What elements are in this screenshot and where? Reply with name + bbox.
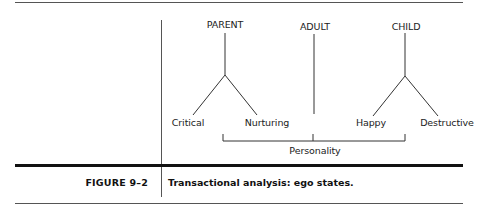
personality-label: Personality [289,145,340,156]
child-happy-branch [373,76,405,116]
child-label: CHILD [392,21,421,32]
destructive-label: Destructive [420,117,474,128]
caption-top-rule [15,164,463,167]
happy-label: Happy [356,117,386,128]
parent-nurturing-branch [225,75,257,115]
parent-critical-branch [193,75,225,115]
figure-number: FIGURE 9–2 [85,177,148,188]
figure-caption: Transactional analysis: ego states. [168,177,354,188]
bottom-rule [15,203,463,204]
critical-label: Critical [172,117,204,128]
personality-bracket [223,134,405,141]
parent-label: PARENT [207,19,244,30]
adult-label: ADULT [300,21,330,32]
nurturing-label: Nurturing [245,117,289,128]
child-destructive-branch [405,76,438,116]
